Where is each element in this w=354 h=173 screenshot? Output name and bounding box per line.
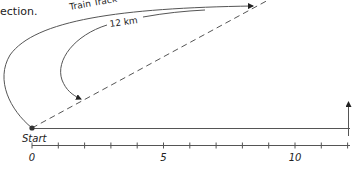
axis-tick-label: 10 bbox=[289, 152, 302, 163]
axis-tick-label: 5 bbox=[160, 152, 166, 163]
direct-path-dashed-line bbox=[32, 0, 272, 128]
distance-label: 12 km bbox=[109, 15, 138, 29]
distance-arc-right bbox=[143, 10, 205, 17]
axis-tick-label: 0 bbox=[29, 152, 35, 163]
caption-fragment: ection. bbox=[0, 5, 37, 18]
train-track-diagram: ection. Train Track 12 km Start 0510 bbox=[0, 0, 354, 173]
distance-axis: 0510 bbox=[29, 143, 350, 164]
distance-arc bbox=[61, 25, 107, 99]
start-label: Start bbox=[22, 133, 48, 144]
start-point bbox=[29, 125, 34, 130]
train-track-label: Train Track bbox=[68, 0, 119, 12]
